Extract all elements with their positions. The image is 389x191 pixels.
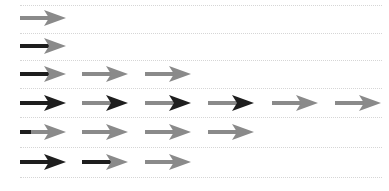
arrow-icon <box>82 66 128 82</box>
dotted-rule <box>20 33 382 34</box>
arrow-icon <box>20 66 66 82</box>
arrow-icon <box>20 124 66 140</box>
arrow-icon <box>335 95 381 111</box>
dotted-rule <box>20 60 382 61</box>
dotted-rule <box>20 88 382 89</box>
arrow-icon <box>82 154 128 170</box>
arrow-icon <box>20 154 66 170</box>
dotted-rule <box>20 5 382 6</box>
arrow-icon <box>208 95 254 111</box>
arrow-icon <box>145 66 191 82</box>
arrow-diagram <box>0 0 389 191</box>
arrow-icon <box>82 124 128 140</box>
arrow-icon <box>82 95 128 111</box>
arrow-icon <box>272 95 318 111</box>
arrow-icon <box>20 10 66 26</box>
dotted-rule <box>20 117 382 118</box>
dotted-rule <box>20 177 382 178</box>
arrow-icon <box>20 38 66 54</box>
arrow-icon <box>145 154 191 170</box>
arrow-icon <box>208 124 254 140</box>
dotted-rule <box>20 147 382 148</box>
arrow-icon <box>20 95 66 111</box>
arrow-icon <box>145 95 191 111</box>
arrow-icon <box>145 124 191 140</box>
